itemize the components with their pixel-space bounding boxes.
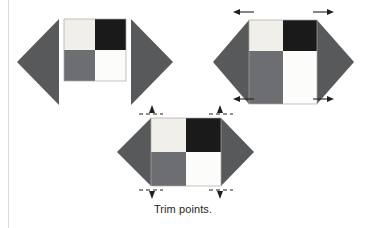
step-1-group — [17, 19, 173, 105]
step-3-group — [117, 105, 254, 199]
step3-patch-bottom-left — [151, 152, 186, 186]
step1-patch-bottom-right — [95, 50, 126, 81]
step2-patch-top-right — [283, 20, 317, 51]
step1-right-triangle — [131, 19, 173, 105]
trim-marker-bottom-right — [209, 190, 233, 199]
step1-patch-square — [64, 19, 126, 81]
step-2-group — [213, 9, 354, 104]
quilt-block-trim-diagram — [0, 0, 366, 228]
step2-patch-bottom-left — [249, 51, 283, 104]
step3-left-triangle — [117, 118, 151, 186]
step3-patch-top-left — [151, 118, 186, 152]
step2-right-triangle — [317, 20, 354, 104]
step3-patch-square — [151, 118, 221, 186]
trim-marker-bottom-left — [139, 190, 163, 199]
step2-patch-square — [249, 20, 317, 104]
step3-patch-bottom-right — [186, 152, 221, 186]
step3-patch-top-right — [186, 118, 221, 152]
illustration-page: Trim points. — [0, 0, 366, 228]
step1-patch-top-right — [95, 19, 126, 50]
step2-patch-bottom-right — [283, 51, 317, 104]
trim-marker-top-right — [209, 105, 233, 114]
step1-patch-top-left — [64, 19, 95, 50]
step1-left-triangle — [17, 19, 59, 105]
step2-patch-top-left — [249, 20, 283, 51]
step1-patch-bottom-left — [64, 50, 95, 81]
figure-caption: Trim points. — [0, 203, 366, 216]
trim-marker-top-left — [139, 105, 163, 114]
arrow-top-right — [313, 9, 334, 15]
step2-left-triangle — [213, 20, 249, 104]
arrow-top-left — [233, 9, 254, 15]
step3-right-triangle — [221, 118, 254, 186]
